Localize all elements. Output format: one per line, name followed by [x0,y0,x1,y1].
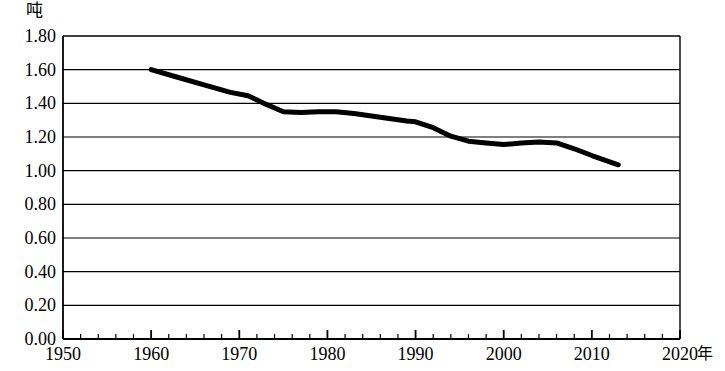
y-axis-tick-label: 0.80 [2,195,56,213]
x-axis-ticks [63,330,680,339]
y-axis-tick-label: 0.20 [2,296,56,314]
y-axis-tick-label: 0.60 [2,229,56,247]
y-axis-tick-label: 1.80 [2,27,56,45]
chart-canvas [0,0,725,371]
x-axis-tick-label: 1990 [386,345,446,363]
x-axis-tick-label: 1960 [121,345,181,363]
gridlines [63,36,680,339]
x-axis-tick-label: 1970 [209,345,269,363]
x-axis-tick-label: 1950 [33,345,93,363]
x-axis-tick-label: 1980 [297,345,357,363]
y-axis-tick-label: 1.60 [2,61,56,79]
x-axis-tick-label: 2020 [650,345,710,363]
y-axis-tick-label: 0.40 [2,263,56,281]
line-chart: 吨 年 0.000.200.400.600.801.001.201.401.60… [0,0,725,371]
data-line [151,70,618,165]
y-axis-tick-label: 1.40 [2,94,56,112]
y-axis-tick-label: 1.00 [2,162,56,180]
data-series-group [151,70,618,165]
x-axis-tick-label: 2000 [474,345,534,363]
x-axis-tick-label: 2010 [562,345,622,363]
y-axis-tick-label: 1.20 [2,128,56,146]
plot-frame [63,36,680,339]
